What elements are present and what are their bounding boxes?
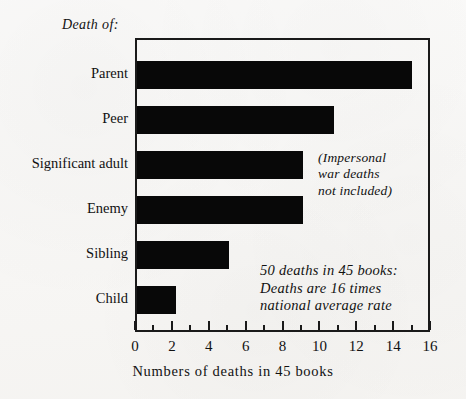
x-tick-major-2 <box>171 321 173 330</box>
x-tick-minor-13 <box>374 325 376 330</box>
x-tick-minor-1 <box>152 325 154 330</box>
x-tick-label-2: 2 <box>157 339 187 354</box>
plot-area: (Impersonalwar deathsnot included) 50 de… <box>137 40 428 330</box>
annotation-line: 50 deaths in 45 books: <box>260 262 398 280</box>
category-label-significant-adult: Significant adult <box>0 156 128 171</box>
x-tick-major-8 <box>282 321 284 330</box>
x-tick-minor-7 <box>263 325 265 330</box>
x-tick-label-8: 8 <box>268 339 298 354</box>
x-tick-label-16: 16 <box>415 339 445 354</box>
annotation-war-deaths: (Impersonalwar deathsnot included) <box>318 150 392 199</box>
x-tick-minor-5 <box>226 325 228 330</box>
annotation-line: Deaths are 16 times <box>260 280 398 298</box>
x-tick-label-10: 10 <box>304 339 334 354</box>
x-axis-title: Numbers of deaths in 45 books <box>0 363 466 380</box>
x-tick-label-12: 12 <box>341 339 371 354</box>
bar-parent <box>137 61 412 89</box>
x-tick-major-16 <box>429 321 431 330</box>
x-tick-label-0: 0 <box>120 339 150 354</box>
plot-frame: (Impersonalwar deathsnot included) 50 de… <box>135 38 430 332</box>
annotation-line: war deaths <box>318 166 392 182</box>
x-tick-major-12 <box>355 321 357 330</box>
x-tick-major-10 <box>318 321 320 330</box>
bar-enemy <box>137 196 303 224</box>
category-label-enemy: Enemy <box>0 201 128 216</box>
x-tick-major-0 <box>134 321 136 330</box>
death-of-caption: Death of: <box>62 17 119 33</box>
x-tick-major-6 <box>245 321 247 330</box>
category-label-peer: Peer <box>0 111 128 126</box>
annotation-line: not included) <box>318 183 392 199</box>
bar-sibling <box>137 241 229 269</box>
bar-significant-adult <box>137 151 303 179</box>
bar-peer <box>137 106 334 134</box>
bar-child <box>137 286 176 314</box>
x-tick-major-14 <box>392 321 394 330</box>
x-tick-label-14: 14 <box>378 339 408 354</box>
x-tick-minor-15 <box>411 325 413 330</box>
x-tick-label-6: 6 <box>231 339 261 354</box>
x-tick-label-4: 4 <box>194 339 224 354</box>
x-tick-minor-3 <box>189 325 191 330</box>
x-tick-major-4 <box>208 321 210 330</box>
category-label-sibling: Sibling <box>0 246 128 261</box>
x-tick-minor-9 <box>300 325 302 330</box>
annotation-line: national average rate <box>260 297 398 315</box>
category-label-child: Child <box>0 291 128 306</box>
annotation-line: (Impersonal <box>318 150 392 166</box>
x-tick-minor-11 <box>337 325 339 330</box>
annotation-deaths-rate: 50 deaths in 45 books:Deaths are 16 time… <box>260 262 398 315</box>
category-label-parent: Parent <box>0 66 128 81</box>
chart-page: Death of: ParentPeerSignificant adultEne… <box>0 0 466 399</box>
